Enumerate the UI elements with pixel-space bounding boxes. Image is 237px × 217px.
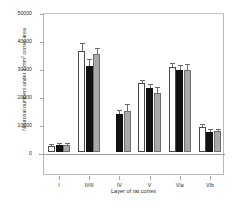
y-axis-tick-mark <box>40 98 44 99</box>
plot-area: III/IIIIVVVIaVIb <box>43 13 224 175</box>
bar[interactable] <box>184 70 191 152</box>
bar[interactable] <box>206 132 213 152</box>
error-bar-cap <box>178 65 183 66</box>
y-axis-tick-label: 40000 <box>2 38 32 44</box>
bar[interactable] <box>138 83 145 152</box>
bar[interactable] <box>48 146 55 152</box>
bar[interactable] <box>146 88 153 152</box>
bar[interactable] <box>176 70 183 152</box>
error-bar <box>127 105 128 111</box>
error-bar-cap <box>208 129 213 130</box>
error-bar-cap <box>155 87 160 88</box>
error-bar <box>97 49 98 54</box>
bar-group <box>78 12 100 152</box>
y-axis-tick-label: 20000 <box>2 94 32 100</box>
x-axis-tick-mark <box>89 176 90 180</box>
error-bar <box>67 144 68 145</box>
y-axis-tick-label: 30000 <box>2 66 32 72</box>
bar[interactable] <box>199 127 206 152</box>
bar[interactable] <box>214 131 221 152</box>
y-axis-tick-labels: 01000020000300004000050000 <box>0 0 32 217</box>
error-bar <box>82 44 83 51</box>
error-bar-cap <box>125 104 130 105</box>
bar-group <box>108 12 130 152</box>
x-axis-title: Layer of rat cortex <box>43 188 224 194</box>
error-bar-cap <box>57 143 62 144</box>
error-bar-cap <box>87 59 92 60</box>
x-axis-tick-mark <box>59 176 60 180</box>
x-axis-tick-mark <box>150 176 151 180</box>
error-bar <box>218 130 219 131</box>
error-bar <box>89 60 90 66</box>
bar-chart-figure: Neuronal numbers under 1 mm2 cortex area… <box>0 0 237 217</box>
y-axis-tick-mark <box>40 42 44 43</box>
y-axis-tick-mark <box>40 70 44 71</box>
bar[interactable] <box>154 93 161 152</box>
bar[interactable] <box>56 145 63 152</box>
error-bar <box>142 81 143 83</box>
bar-group <box>199 12 221 152</box>
error-bar <box>210 130 211 131</box>
y-axis-tick-label: 50000 <box>2 10 32 16</box>
error-bar-cap <box>216 129 221 130</box>
y-axis-tick-mark <box>40 154 44 155</box>
error-bar-cap <box>200 124 205 125</box>
x-axis-tick-mark <box>210 176 211 180</box>
bar[interactable] <box>169 67 176 152</box>
zero-baseline <box>39 154 225 155</box>
error-bar <box>180 66 181 70</box>
y-axis-tick-mark <box>40 126 44 127</box>
y-axis-tick-mark <box>40 14 44 15</box>
error-bar <box>187 65 188 70</box>
bar[interactable] <box>78 51 85 152</box>
error-bar-cap <box>185 64 190 65</box>
bar[interactable] <box>93 54 100 152</box>
bar[interactable] <box>124 111 131 152</box>
error-bar <box>51 145 52 146</box>
error-bar-cap <box>65 143 70 144</box>
error-bar <box>150 85 151 88</box>
error-bar-cap <box>95 48 100 49</box>
error-bar <box>119 111 120 115</box>
bar[interactable] <box>86 66 93 152</box>
error-bar-cap <box>170 63 175 64</box>
error-bar-cap <box>49 144 54 145</box>
error-bar-cap <box>140 80 145 81</box>
x-axis-tick-mark <box>119 176 120 180</box>
error-bar <box>172 64 173 67</box>
error-bar-cap <box>80 43 85 44</box>
error-bar <box>202 125 203 128</box>
bar[interactable] <box>63 145 70 152</box>
y-axis-tick-label: 10000 <box>2 122 32 128</box>
bar-group <box>138 12 160 152</box>
bar-group <box>169 12 191 152</box>
bar[interactable] <box>116 114 123 152</box>
error-bar <box>59 144 60 145</box>
x-axis-tick-mark <box>180 176 181 180</box>
error-bar <box>157 88 158 92</box>
error-bar-cap <box>148 84 153 85</box>
error-bar-cap <box>117 110 122 111</box>
y-axis-tick-label: 0 <box>2 150 32 156</box>
bar-group <box>48 12 70 152</box>
